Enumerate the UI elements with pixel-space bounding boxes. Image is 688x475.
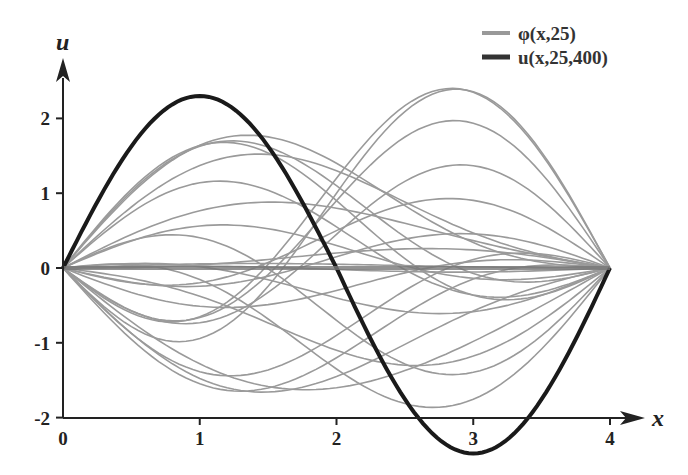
y-tick-label: 0 <box>41 258 51 279</box>
legend: φ(x,25) u(x,25,400) <box>482 23 608 69</box>
y-tick-label: 1 <box>41 183 51 204</box>
y-tick-label: 2 <box>41 108 51 129</box>
phi-curves <box>63 88 610 407</box>
x-tick-label: 1 <box>195 428 205 449</box>
x-ticks: 01234 <box>58 418 615 449</box>
y-axis <box>56 58 70 418</box>
phi-curve <box>63 141 610 282</box>
y-tick-label: -1 <box>34 333 50 354</box>
phi-curve <box>63 88 610 322</box>
x-tick-label: 3 <box>469 428 479 449</box>
phi-curve <box>63 154 610 268</box>
x-tick-label: 0 <box>58 428 68 449</box>
y-tick-label: -2 <box>34 408 50 429</box>
phi-curve <box>63 142 610 299</box>
u-curve <box>63 96 610 454</box>
legend-label-u: u(x,25,400) <box>518 47 608 69</box>
chart: -2-1012 01234 u x φ(x,25) u(x,25,400) <box>0 0 688 475</box>
x-tick-label: 2 <box>332 428 342 449</box>
legend-label-phi: φ(x,25) <box>518 23 576 45</box>
y-axis-title: u <box>56 29 69 55</box>
x-tick-label: 4 <box>605 428 615 449</box>
y-ticks: -2-1012 <box>34 108 63 428</box>
x-axis <box>63 411 645 425</box>
x-axis-title: x <box>651 405 664 431</box>
